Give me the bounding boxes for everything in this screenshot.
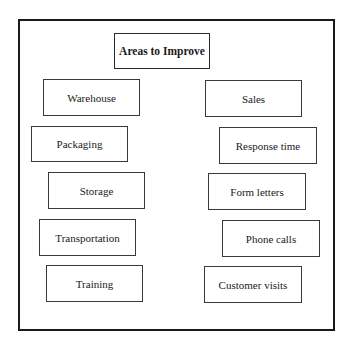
- title-label: Areas to Improve: [119, 45, 205, 57]
- box-phone-calls: Phone calls: [222, 220, 320, 257]
- box-label: Packaging: [57, 138, 103, 150]
- box-label: Form letters: [230, 186, 283, 198]
- box-label: Phone calls: [246, 233, 296, 245]
- box-sales: Sales: [205, 80, 302, 117]
- box-form-letters: Form letters: [208, 173, 306, 210]
- box-customer-visits: Customer visits: [204, 266, 302, 303]
- title-box: Areas to Improve: [114, 33, 210, 69]
- box-label: Warehouse: [67, 92, 116, 104]
- box-transportation: Transportation: [39, 219, 136, 256]
- box-label: Training: [76, 278, 114, 290]
- box-training: Training: [46, 265, 143, 302]
- box-warehouse: Warehouse: [43, 79, 140, 116]
- box-packaging: Packaging: [31, 126, 128, 162]
- box-response-time: Response time: [219, 127, 317, 164]
- box-label: Storage: [80, 185, 114, 197]
- box-label: Transportation: [55, 232, 119, 244]
- box-label: Sales: [242, 93, 265, 105]
- box-label: Customer visits: [219, 279, 288, 291]
- box-storage: Storage: [48, 172, 145, 209]
- box-label: Response time: [236, 140, 300, 152]
